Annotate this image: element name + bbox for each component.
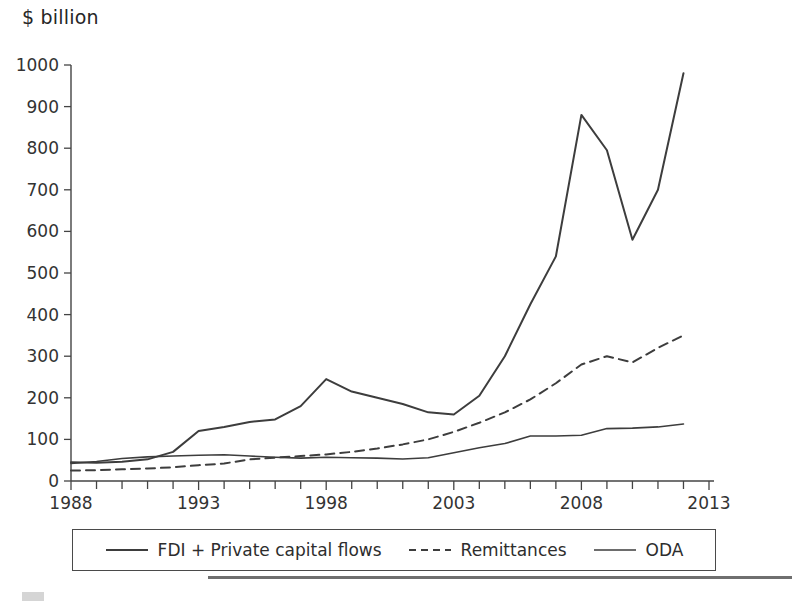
legend-label: FDI + Private capital flows — [158, 540, 382, 560]
y-tick-label: 500 — [27, 263, 59, 283]
series-line — [71, 335, 683, 470]
legend-label: ODA — [646, 540, 684, 560]
y-axis-ticks: 01002003004005006007008009001000 — [16, 55, 71, 491]
solid-line-swatch — [593, 545, 637, 555]
x-tick-label: 1988 — [49, 493, 92, 513]
plot-area: 01002003004005006007008009001000 1988199… — [0, 0, 792, 525]
x-tick-label: 2013 — [687, 493, 730, 513]
chart-figure: $ billion 010020030040050060070080090010… — [0, 0, 792, 604]
footer-divider-rule — [208, 576, 792, 579]
x-axis-ticks: 198819931998200320082013 — [49, 481, 730, 513]
x-tick-label: 2003 — [432, 493, 475, 513]
dashed-line-swatch — [408, 545, 452, 555]
y-tick-label: 900 — [27, 97, 59, 117]
chart-legend: FDI + Private capital flowsRemittancesOD… — [72, 529, 716, 571]
series-line — [71, 424, 683, 464]
y-tick-label: 1000 — [16, 55, 59, 75]
y-tick-label: 400 — [27, 305, 59, 325]
legend-entry[interactable]: Remittances — [408, 540, 567, 560]
legend-label: Remittances — [461, 540, 567, 560]
footer-marker-block — [22, 592, 44, 601]
y-tick-label: 200 — [27, 388, 59, 408]
y-tick-label: 100 — [27, 429, 59, 449]
solid-line-swatch — [105, 545, 149, 555]
x-tick-label: 1998 — [305, 493, 348, 513]
legend-entry[interactable]: ODA — [593, 540, 684, 560]
x-tick-label: 2008 — [560, 493, 603, 513]
data-series-layer — [71, 73, 683, 470]
x-tick-label: 1993 — [177, 493, 220, 513]
y-tick-label: 300 — [27, 346, 59, 366]
y-tick-label: 700 — [27, 180, 59, 200]
y-tick-label: 800 — [27, 138, 59, 158]
y-tick-label: 600 — [27, 221, 59, 241]
series-line — [71, 73, 683, 462]
legend-entry[interactable]: FDI + Private capital flows — [105, 540, 382, 560]
y-tick-label: 0 — [48, 471, 59, 491]
